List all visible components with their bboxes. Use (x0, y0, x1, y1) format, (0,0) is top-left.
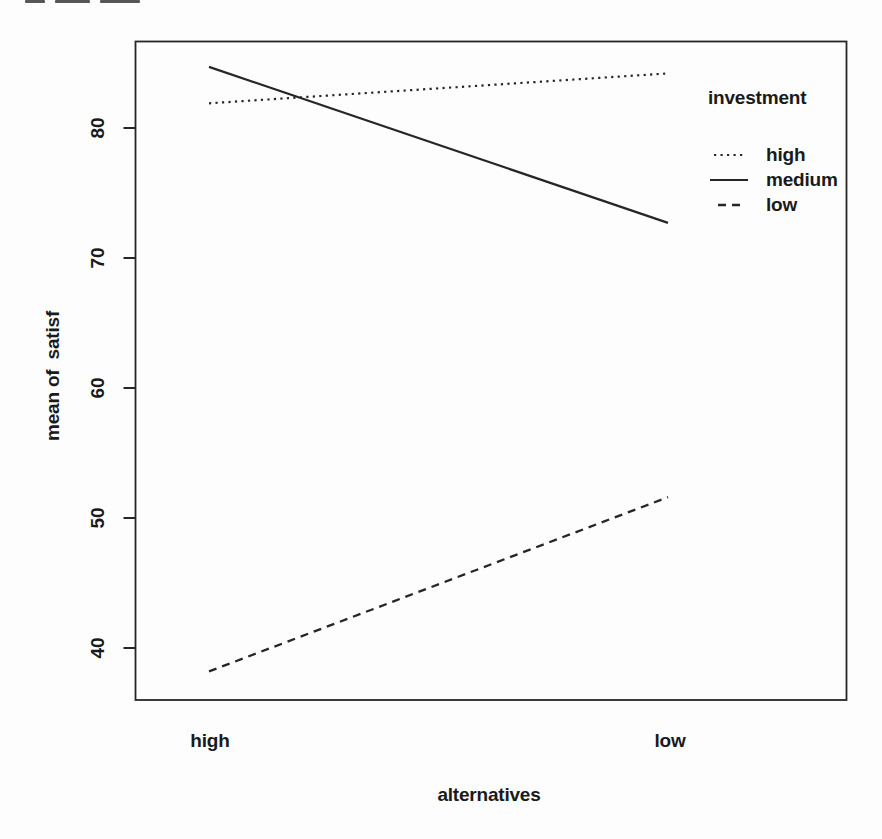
x-axis-title: alternatives (437, 784, 540, 806)
series-line-low (209, 497, 668, 671)
legend-item-medium: medium (708, 167, 848, 192)
legend-label-high: high (766, 144, 805, 166)
legend-sample-dashed-line (708, 201, 750, 209)
y-tick-label: 70 (87, 247, 108, 268)
y-tick-label: 60 (87, 377, 108, 398)
series-line-high (209, 73, 668, 103)
y-tick-label: 80 (87, 117, 108, 138)
y-axis-title: mean of satisf (42, 311, 64, 441)
legend-label-medium: medium (766, 169, 838, 191)
legend: investment highmediumlow (708, 87, 848, 217)
legend-sample-solid-line (708, 176, 750, 184)
legend-label-low: low (766, 194, 797, 216)
legend-title: investment (708, 87, 848, 109)
x-tick-label-low: low (654, 730, 685, 752)
series-line-medium (209, 67, 668, 223)
y-tick-label: 40 (87, 637, 108, 658)
legend-rows: highmediumlow (708, 142, 848, 217)
y-tick-label: 50 (87, 507, 108, 528)
legend-item-high: high (708, 142, 848, 167)
legend-sample-dotted-line (708, 151, 750, 159)
x-tick-label-high: high (190, 730, 229, 752)
figure-canvas: 4050607080 mean of satisf alternatives h… (0, 0, 882, 839)
legend-item-low: low (708, 192, 848, 217)
